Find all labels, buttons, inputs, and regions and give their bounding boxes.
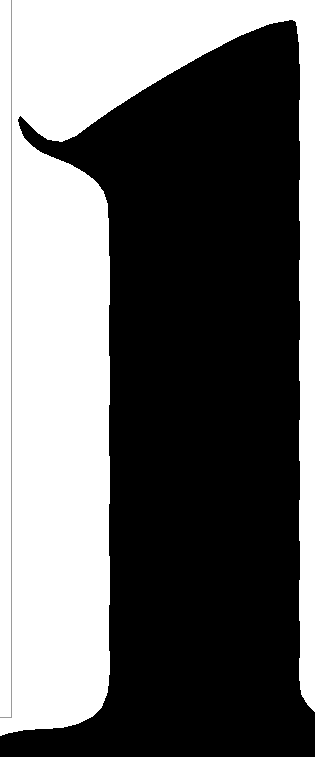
document-scan-viewport [0, 0, 315, 757]
numeral-one-glyph-path [0, 20, 315, 757]
scanned-glyph-layer [0, 0, 315, 757]
scanned-numeral-one-svg [0, 0, 315, 757]
